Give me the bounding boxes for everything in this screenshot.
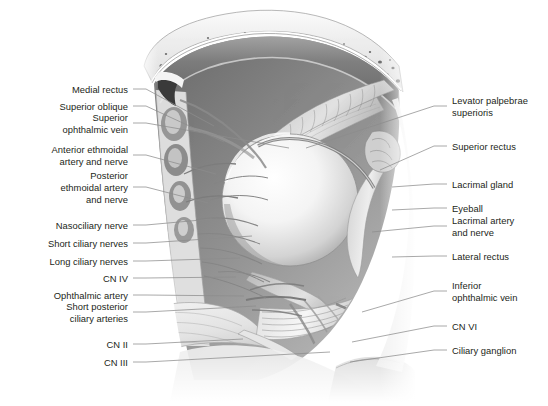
callout-label-lacrimal-gland: Lacrimal gland (452, 179, 513, 191)
callout-label-superior-ophthalmic-vein: Superior ophthalmic vein (63, 112, 128, 136)
callout-label-cn-ii: CN II (107, 339, 128, 351)
ciliary-ganglion-body (341, 329, 356, 339)
orbit-illustration (140, 4, 415, 402)
callout-label-ciliary-ganglion: Ciliary ganglion (452, 345, 516, 357)
callout-label-inferior-ophthalmic-vein: Inferior ophthalmic vein (452, 280, 517, 304)
callout-label-short-posterior-ciliary: Short posterior ciliary arteries (66, 301, 128, 325)
cn-vi-fiber (336, 326, 366, 354)
callout-label-lacrimal-artery-nerve: Lacrimal artery and nerve (452, 215, 514, 239)
callout-label-levator-palpebrae: Levator palpebrae superioris (452, 95, 528, 119)
callout-label-cn-iv: CN IV (103, 273, 128, 285)
callout-label-short-ciliary-nerves: Short ciliary nerves (48, 238, 128, 250)
callout-label-cn-vi: CN VI (452, 321, 477, 333)
callout-label-nasociliary-nerve: Nasociliary nerve (56, 220, 128, 232)
callout-label-superior-rectus: Superior rectus (452, 141, 516, 153)
callout-label-cn-iii: CN III (104, 357, 128, 369)
callout-label-eyeball: Eyeball (452, 203, 483, 215)
callout-label-anterior-ethmoidal: Anterior ethmoidal artery and nerve (52, 144, 128, 168)
callout-label-posterior-ethmoidal: Posterior ethmoidal artery and nerve (60, 170, 128, 207)
anatomical-plate: Medial rectusSuperior obliqueSuperior op… (0, 0, 548, 406)
callout-label-long-ciliary-nerves: Long ciliary nerves (49, 256, 128, 268)
callout-label-medial-rectus: Medial rectus (72, 84, 128, 96)
callout-label-lateral-rectus: Lateral rectus (452, 251, 509, 263)
